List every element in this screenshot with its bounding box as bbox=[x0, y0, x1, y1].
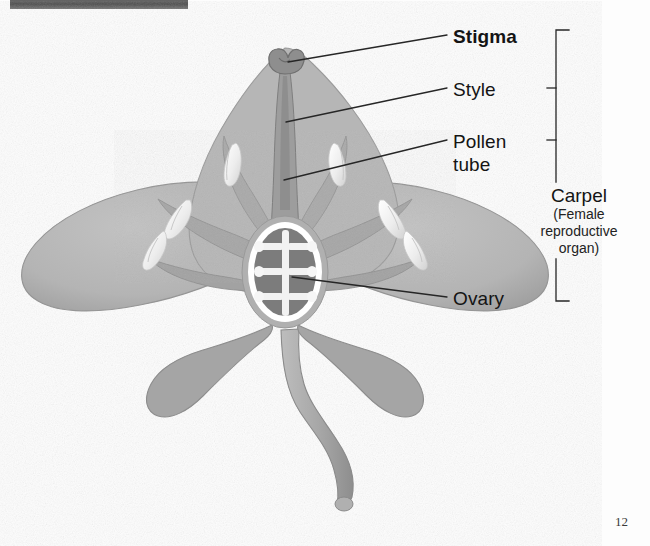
label-stigma: Stigma bbox=[453, 26, 517, 48]
stem-tip bbox=[335, 497, 353, 511]
label-style: Style bbox=[453, 79, 496, 101]
bracket-lower-spine bbox=[556, 259, 569, 301]
ovule-1-right-tip bbox=[307, 241, 317, 252]
bracket-upper-spine bbox=[556, 30, 569, 182]
ovule-3-right-tip bbox=[307, 291, 317, 302]
carpel-bracket bbox=[547, 30, 569, 301]
sepal-left bbox=[147, 325, 273, 417]
leader-stigma bbox=[288, 35, 447, 62]
label-pollen-tube-line2: tube bbox=[453, 153, 506, 176]
page-number: 12 bbox=[615, 514, 628, 530]
ovule-2-right-tip bbox=[307, 266, 317, 277]
label-carpel-block: Carpel (Female reproductive organ) bbox=[515, 186, 643, 257]
label-carpel-sub-line1: (Female bbox=[515, 206, 643, 223]
ovule-3-left-tip bbox=[254, 291, 264, 302]
ovule-2-left-tip bbox=[254, 266, 264, 277]
ovary-group bbox=[242, 216, 328, 328]
flower-diagram bbox=[0, 0, 650, 546]
label-carpel-subtitle: (Female reproductive organ) bbox=[515, 206, 643, 257]
ovule-1-left-tip bbox=[254, 241, 264, 252]
figure-page: Stigma Style Pollen tube Ovary Carpel (F… bbox=[0, 0, 650, 546]
label-pollen-tube: Pollen tube bbox=[453, 130, 506, 176]
label-pollen-tube-line1: Pollen bbox=[453, 130, 506, 153]
label-carpel: Carpel bbox=[515, 186, 643, 205]
label-carpel-sub-line3: organ) bbox=[515, 240, 643, 257]
label-ovary: Ovary bbox=[453, 288, 504, 310]
sepal-right bbox=[297, 325, 423, 417]
label-carpel-sub-line2: reproductive bbox=[515, 223, 643, 240]
